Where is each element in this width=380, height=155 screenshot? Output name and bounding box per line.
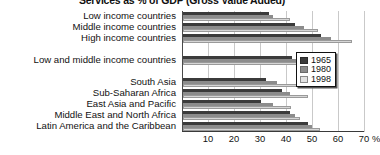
legend-swatch-icon [300,76,308,83]
category-label: East Asia and Pacific [86,99,176,109]
bar-1998 [183,40,352,43]
chart-title: Services as % of GDP (Gross Value Added) [0,0,364,6]
category-label: Middle East and North Africa [54,110,176,120]
bar-1998 [183,95,308,98]
bar-1998 [183,18,290,21]
legend-label: 1980 [311,65,331,74]
x-axis-unit-label: % [372,133,380,144]
x-tick-label: 10 [203,133,213,144]
bar-1998 [183,29,318,32]
bar-1998 [183,84,297,87]
category-axis: Low income countriesMiddle income countr… [0,11,179,132]
category-label: Low income countries [83,11,176,21]
gridline-60 [338,11,339,132]
legend-swatch-icon [300,66,308,73]
legend-entry: 1998 [300,75,331,84]
x-tick-label: 30 [255,133,265,144]
chart-legend: 196519801998 [296,52,336,87]
bar-1998 [183,106,291,109]
x-tick-label: 70 [359,133,369,144]
x-tick-label: 20 [229,133,239,144]
x-tick-label: 40 [281,133,291,144]
category-label: High income countries [81,33,176,43]
category-label: Sub-Saharan Africa [93,88,176,98]
y-axis-spine [182,11,183,132]
bar-1998 [183,117,300,120]
legend-label: 1998 [311,75,331,84]
legend-entry: 1980 [300,65,331,74]
category-label: South Asia [130,77,176,87]
legend-swatch-icon [300,57,308,64]
x-axis-spine [182,131,364,132]
x-axis-tick-labels: 10203040506070% [182,133,364,147]
x-tick-label: 60 [333,133,343,144]
x-tick-label: 50 [307,133,317,144]
gridline-70 [364,11,365,132]
plot-area [182,11,364,132]
category-label: Latin America and the Caribbean [36,121,176,131]
category-label: Low and middle income countries [34,55,176,65]
category-label: Middle income countries [73,22,176,32]
